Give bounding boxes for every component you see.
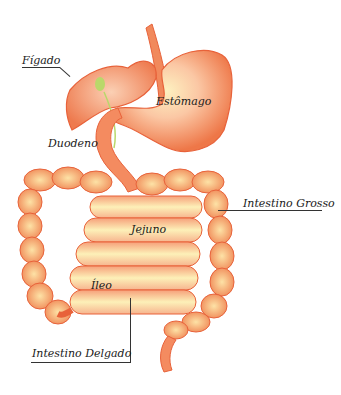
label-stomach: Estômago [156, 96, 211, 107]
leader-line-large-intestine [218, 210, 322, 211]
label-small-intestine: Intestino Delgado [32, 348, 131, 359]
ascending-colon [18, 189, 71, 324]
sigmoid-colon [161, 312, 210, 372]
leader-line-liver [22, 67, 60, 68]
label-jejunum: Jejuno [131, 224, 166, 235]
label-ileum: Íleo [91, 280, 112, 291]
digestive-system-diagram: Fígado Estômago Duodeno Intestino Grosso… [0, 0, 341, 395]
label-liver: Fígado [22, 55, 60, 66]
small-intestine [58, 196, 202, 315]
gallbladder [95, 77, 105, 91]
label-duodenum: Duodeno [48, 138, 98, 149]
leader-line-small-intestine [31, 362, 131, 363]
label-large-intestine: Intestino Grosso [243, 198, 335, 209]
